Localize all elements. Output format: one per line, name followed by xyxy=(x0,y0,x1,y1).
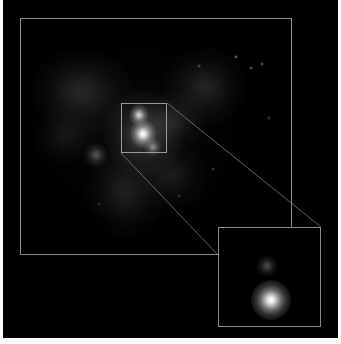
figure-page xyxy=(0,0,341,344)
astronomical-plate xyxy=(3,0,338,338)
zoom-region-box xyxy=(121,103,167,153)
inset-primary-core xyxy=(251,280,291,320)
inset-sky-field xyxy=(219,228,320,326)
inset-secondary-knot xyxy=(256,255,278,277)
magnified-inset xyxy=(218,227,321,327)
